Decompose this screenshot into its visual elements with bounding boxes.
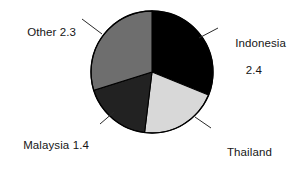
pie-label-thailand-name: Thailand: [227, 146, 272, 158]
pie-label-indonesia-name: Indonesia: [235, 37, 286, 49]
pie-label-malaysia: Malaysia 1.4: [10, 125, 89, 166]
pie-label-malaysia-text: Malaysia 1.4: [23, 139, 89, 151]
leader-line-other: [82, 19, 102, 34]
pie-chart: Other 2.3 Indonesia 2.4 Malaysia 1.4 Tha…: [0, 0, 300, 175]
pie-label-indonesia: Indonesia 2.4: [222, 23, 286, 104]
pie-label-thailand: Thailand 1.6: [214, 132, 272, 175]
pie-label-other: Other 2.3: [14, 12, 76, 53]
leader-line-indonesia: [199, 28, 218, 38]
leader-line-thailand: [195, 117, 211, 128]
pie-label-other-text: Other 2.3: [27, 26, 76, 38]
pie-label-thailand-value: 1.6: [214, 173, 272, 176]
pie-label-indonesia-value: 2.4: [222, 64, 286, 78]
